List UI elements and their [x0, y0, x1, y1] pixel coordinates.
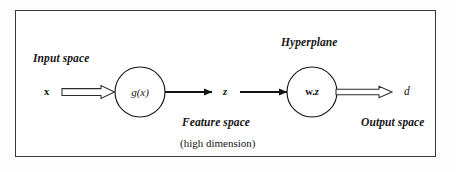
variable-feature-z: z [223, 87, 227, 98]
node-label-hyperplane-w: w [305, 86, 312, 97]
arrow-hyperplane-to-output [336, 86, 392, 98]
node-label-hyperplane: w.z [305, 87, 319, 98]
arrow-input-to-mapping [62, 86, 115, 99]
caption-output-space: Output space [361, 117, 425, 129]
caption-hyperplane: Hyperplane [281, 37, 338, 49]
node-label-hyperplane-z: z [315, 86, 319, 97]
caption-high-dimension: (high dimension) [180, 138, 255, 149]
diagram-canvas: Input space Hyperplane Feature space (hi… [0, 0, 456, 172]
caption-input-space: Input space [33, 53, 89, 65]
caption-feature-space: Feature space [182, 117, 250, 129]
node-label-mapping: g(x) [131, 87, 149, 98]
variable-output-d: d [404, 86, 410, 98]
variable-input-x: x [44, 87, 49, 98]
